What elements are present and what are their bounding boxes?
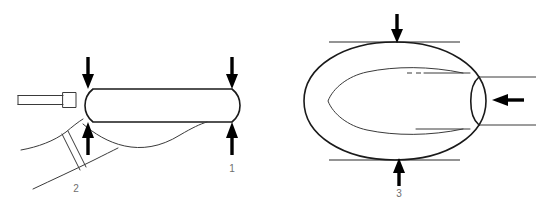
capsule-outline: [85, 89, 240, 122]
right-view-cross-section: 3: [304, 14, 536, 199]
arrow-top-down: [391, 14, 403, 43]
left-inlet-tube: [18, 93, 76, 108]
arrow-head: [226, 74, 238, 89]
arrow-bottom-left-up: [82, 122, 94, 155]
diagram-canvas: 1 2: [0, 0, 536, 203]
technical-diagram: 1 2: [0, 0, 536, 203]
label-2: 2: [73, 183, 79, 194]
label-3: 3: [396, 188, 402, 199]
tube-collar: [63, 93, 76, 108]
arrow-bottom-up: [393, 158, 405, 186]
inner-leaf-profile: [328, 68, 463, 135]
outer-oval-profile: [304, 42, 486, 160]
arrow-head: [391, 29, 403, 43]
strap-upper-arm: [21, 119, 83, 150]
arrow-top-right-down: [226, 57, 238, 89]
strap-band-left-edge: [62, 134, 80, 170]
arrow-head: [226, 122, 238, 138]
arrow-top-left-down: [82, 57, 94, 89]
right-tube-nose: [471, 77, 479, 125]
arrow-head: [82, 74, 94, 89]
label-1: 1: [229, 163, 235, 174]
arrow-right-left: [492, 94, 524, 106]
underside-sweep-curve: [83, 122, 207, 148]
left-view-arrows: [82, 57, 238, 155]
left-capsule-body: [85, 89, 240, 122]
arrow-head: [492, 94, 508, 106]
left-view-side: 1 2: [18, 57, 240, 194]
arrow-bottom-right-up: [226, 122, 238, 155]
left-lower-curve: [83, 122, 207, 148]
left-strap-assembly: [21, 119, 118, 189]
